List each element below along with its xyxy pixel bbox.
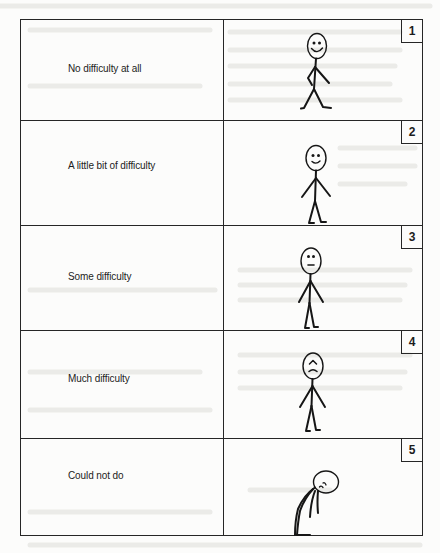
row-label-cell: A little bit of difficulty (21, 121, 224, 225)
row-label-cell: Much difficulty (21, 331, 224, 438)
row-label-text: A little bit of difficulty (68, 160, 155, 171)
row-label-cell: No difficulty at all (21, 20, 224, 120)
scale-row-1: No difficulty at all 1 (21, 20, 422, 121)
difficulty-scale-table: No difficulty at all 1 A little bit of d… (20, 19, 423, 536)
row-figure-cell: 1 (224, 20, 422, 120)
row-label-text: Some difficulty (68, 271, 131, 282)
row-label-text: No difficulty at all (68, 63, 141, 74)
standing-frowning-figure-icon (224, 331, 423, 438)
row-figure-cell: 5 (224, 439, 422, 535)
row-label-text: Much difficulty (68, 373, 130, 384)
standing-slight-smile-figure-icon (224, 121, 423, 225)
standing-smiling-figure-icon (224, 20, 423, 120)
slumped-over-figure-icon (224, 439, 423, 535)
row-figure-cell: 2 (224, 121, 422, 225)
row-label-cell: Could not do (21, 439, 224, 535)
scale-row-3: Some difficulty 3 (21, 226, 422, 331)
row-figure-cell: 4 (224, 331, 422, 438)
row-label-text: Could not do (68, 470, 124, 481)
row-label-cell: Some difficulty (21, 226, 224, 330)
scale-row-5: Could not do 5 (21, 439, 422, 535)
scale-row-4: Much difficulty 4 (21, 331, 422, 439)
scale-row-2: A little bit of difficulty 2 (21, 121, 422, 226)
row-figure-cell: 3 (224, 226, 422, 330)
standing-neutral-figure-icon (224, 226, 423, 330)
